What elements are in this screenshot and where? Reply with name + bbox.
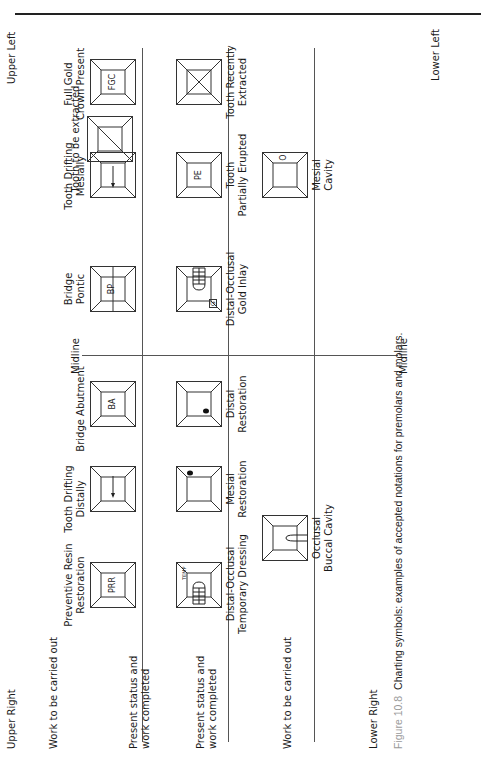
symbol-label-tooth-partially-erupted: Tooth Partially Erupted	[225, 130, 249, 220]
page-header-rule	[15, 13, 481, 15]
midline-rule	[82, 355, 398, 356]
label-line1: Occlusal	[311, 498, 323, 578]
label-line2: Restoration	[237, 364, 249, 444]
tooth-symbol-full-gold-crown-present: FGC	[90, 59, 136, 105]
label-line1: Tooth	[225, 130, 237, 220]
row-label-upper-present-line1: Present status and	[128, 656, 140, 749]
charting-symbols-figure: Upper Right Upper Left Lower Right Lower…	[0, 0, 481, 769]
quadrant-label-lower-left: Lower Left	[430, 29, 442, 81]
tooth-symbol-bridge-pontic: BP	[90, 266, 136, 312]
row-label-upper-present: Present status and work completed	[128, 656, 152, 749]
arrow-left-icon	[90, 152, 136, 198]
tooth-symbol-distal-occlusal-gold-inlay: G	[176, 266, 222, 312]
symbol-code-prr: PRR	[108, 573, 117, 597]
label-line1: Distal-Occlusal	[225, 529, 237, 639]
symbol-label-tooth-drifting-distally: Tooth Drifting Distally	[63, 459, 87, 539]
label-line1: Mesial	[311, 140, 323, 210]
tooth-symbol-mesial-restoration	[176, 466, 222, 512]
figure-caption: Figure 10.8Charting symbols: examples of…	[392, 333, 404, 749]
label-line2: Restoration	[237, 449, 249, 529]
tooth-symbol-distal-restoration	[176, 381, 222, 427]
quadrant-label-upper-right: Upper Right	[6, 689, 18, 749]
row-label-lower-present: Present status and work completed	[195, 656, 219, 749]
row-label-lower-work: Work to be carried out	[282, 637, 294, 749]
symbol-label-tooth-recently-extracted: Tooth Recently Extracted	[225, 37, 249, 127]
label-line2: Cavity	[323, 140, 335, 210]
row-label-upper-work: Work to be carried out	[48, 637, 60, 749]
figure-number: Figure 10.8	[392, 696, 404, 749]
row-label-lower-present-line1: Present status and	[195, 656, 207, 749]
label-line1: Bridge	[63, 259, 75, 319]
tooth-symbol-bridge-abutment: BA	[90, 381, 136, 427]
symbol-code-g: G	[209, 299, 217, 308]
symbol-code-bp: BP	[107, 277, 116, 301]
symbol-label-full-gold-crown-present: Full Gold Crown Present	[63, 44, 87, 124]
label-line2: Gold Inlay	[237, 239, 249, 339]
symbol-label-tooth-drifting-mesially: Tooth Drifting Mesially	[63, 136, 87, 216]
tooth-symbol-distal-occlusal-temporary-dressing: TEMP	[176, 562, 222, 608]
symbol-label-preventive-resin-restoration: Preventive Resin Restoration	[63, 535, 87, 635]
label-line1: Bridge Abutment	[75, 364, 87, 454]
label-line2: Partially Erupted	[237, 130, 249, 220]
row-label-lower-present-line2: work completed	[207, 656, 219, 749]
tooth-symbol-preventive-resin-restoration: PRR	[90, 562, 136, 608]
extraction-cross-icon	[176, 59, 222, 105]
symbol-label-occlusal-buccal-cavity: Occlusal Buccal Cavity	[311, 498, 335, 578]
symbol-code-fgc: FGC	[108, 70, 117, 94]
label-line2: Restoration	[75, 535, 87, 635]
label-line1: Tooth Drifting	[63, 459, 75, 539]
label-line2: Buccal Cavity	[323, 498, 335, 578]
label-line1: Tooth Drifting	[63, 136, 75, 216]
quadrant-label-lower-right: Lower Right	[368, 690, 380, 749]
label-line2: Crown Present	[75, 44, 87, 124]
symbol-code-o: O	[279, 152, 288, 163]
tooth-symbol-mesial-cavity: O	[262, 152, 308, 198]
label-line1: Tooth Recently	[225, 37, 237, 127]
label-line2: Temporary Dressing	[237, 529, 249, 639]
quadrant-label-upper-left: Upper Left	[6, 32, 18, 84]
filled-dot-icon	[176, 381, 222, 427]
symbol-label-distal-occlusal-temporary-dressing: Distal-Occlusal Temporary Dressing	[225, 529, 249, 639]
figure-caption-text: Charting symbols: examples of accepted n…	[392, 333, 404, 690]
occlusal-buccal-cavity-icon	[262, 515, 308, 561]
tooth-symbol-tooth-drifting-distally	[90, 466, 136, 512]
arrow-left-icon	[90, 466, 136, 512]
filled-dot-icon	[176, 466, 222, 512]
symbol-code-pe: PE	[194, 163, 203, 187]
tooth-symbol-tooth-drifting-mesially	[90, 152, 136, 198]
label-line1: Preventive Resin	[63, 535, 75, 635]
symbol-label-bridge-abutment: Bridge Abutment	[75, 364, 87, 454]
tooth-symbol-tooth-recently-extracted	[176, 59, 222, 105]
symbol-code-temp: TEMP	[181, 566, 187, 580]
symbol-label-mesial-restoration: Mesial Restoration	[225, 449, 249, 529]
row-label-upper-present-line2: work completed	[140, 656, 152, 749]
label-line2: Pontic	[75, 259, 87, 319]
symbol-code-ba: BA	[108, 392, 117, 416]
tooth-symbol-tooth-partially-erupted: PE	[176, 152, 222, 198]
label-line1: Distal	[225, 364, 237, 444]
label-line2: Distally	[75, 459, 87, 539]
symbol-label-distal-restoration: Distal Restoration	[225, 364, 249, 444]
tooth-symbol-occlusal-buccal-cavity	[262, 515, 308, 561]
label-line1: Full Gold	[63, 44, 75, 124]
rule-upper-work-divider	[142, 48, 143, 742]
label-line2: Extracted	[237, 37, 249, 127]
label-line2: Mesially	[75, 136, 87, 216]
symbol-label-mesial-cavity: Mesial Cavity	[311, 140, 335, 210]
label-line1: Distal-Occlusal	[225, 239, 237, 339]
symbol-label-distal-occlusal-gold-inlay: Distal-Occlusal Gold Inlay	[225, 239, 249, 339]
label-line1: Mesial	[225, 449, 237, 529]
symbol-label-bridge-pontic: Bridge Pontic	[63, 259, 87, 319]
